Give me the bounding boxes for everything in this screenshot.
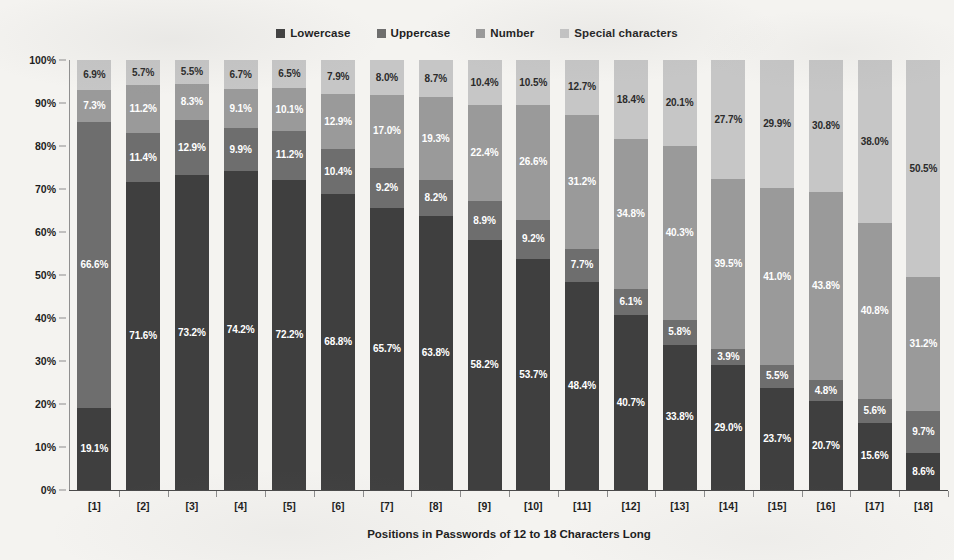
bar-segment[interactable]: 48.4% bbox=[565, 282, 599, 490]
stacked-bar[interactable]: 15.6%5.6%40.8%38.0% bbox=[858, 60, 892, 490]
bar-segment[interactable]: 53.7% bbox=[516, 259, 550, 490]
bar-segment[interactable]: 40.7% bbox=[614, 315, 648, 490]
bar-segment[interactable]: 11.2% bbox=[272, 131, 306, 179]
bar-segment[interactable]: 18.4% bbox=[614, 60, 648, 139]
bar-segment[interactable]: 9.2% bbox=[370, 168, 404, 208]
bar-segment[interactable]: 11.4% bbox=[126, 133, 160, 182]
stacked-bar[interactable]: 58.2%8.9%22.4%10.4% bbox=[468, 60, 502, 490]
bar-segment-value-label: 10.1% bbox=[276, 105, 304, 115]
bar-slot: 29.0%3.9%39.5%27.7% bbox=[704, 60, 753, 490]
bar-segment[interactable]: 10.4% bbox=[321, 149, 355, 194]
bar-segment[interactable]: 29.9% bbox=[760, 60, 794, 188]
bar-segment[interactable]: 22.4% bbox=[468, 105, 502, 201]
stacked-bar[interactable]: 72.2%11.2%10.1%6.5% bbox=[272, 60, 306, 490]
bar-segment[interactable]: 10.1% bbox=[272, 88, 306, 131]
stacked-bar[interactable]: 73.2%12.9%8.3%5.5% bbox=[175, 60, 209, 490]
stacked-bar[interactable]: 19.1%66.6%7.3%6.9% bbox=[77, 60, 111, 490]
bar-segment[interactable]: 58.2% bbox=[468, 240, 502, 490]
stacked-bar[interactable]: 53.7%9.2%26.6%10.5% bbox=[516, 60, 550, 490]
bar-segment[interactable]: 9.9% bbox=[224, 128, 258, 171]
bar-segment[interactable]: 38.0% bbox=[858, 60, 892, 223]
bar-segment[interactable]: 8.7% bbox=[419, 60, 453, 97]
bar-segment[interactable]: 29.0% bbox=[711, 365, 745, 490]
bar-segment[interactable]: 5.8% bbox=[663, 320, 697, 345]
bar-segment-value-label: 9.2% bbox=[522, 234, 544, 244]
bar-segment[interactable]: 41.0% bbox=[760, 188, 794, 364]
bar-segment[interactable]: 8.2% bbox=[419, 180, 453, 215]
bar-segment[interactable]: 33.8% bbox=[663, 345, 697, 490]
bar-segment[interactable]: 71.6% bbox=[126, 182, 160, 490]
bar-segment[interactable]: 9.2% bbox=[516, 220, 550, 260]
bar-segment[interactable]: 23.7% bbox=[760, 388, 794, 490]
bar-segment[interactable]: 5.5% bbox=[760, 365, 794, 389]
bar-segment[interactable]: 20.7% bbox=[809, 401, 843, 490]
stacked-bar[interactable]: 65.7%9.2%17.0%8.0% bbox=[370, 60, 404, 490]
bar-segment[interactable]: 43.8% bbox=[809, 192, 843, 380]
bar-segment[interactable]: 6.7% bbox=[224, 60, 258, 89]
bar-segment[interactable]: 30.8% bbox=[809, 60, 843, 192]
bar-segment[interactable]: 12.7% bbox=[565, 60, 599, 115]
stacked-bar[interactable]: 48.4%7.7%31.2%12.7% bbox=[565, 60, 599, 490]
bar-segment[interactable]: 39.5% bbox=[711, 179, 745, 349]
stacked-bar[interactable]: 40.7%6.1%34.8%18.4% bbox=[614, 60, 648, 490]
bar-segment[interactable]: 8.9% bbox=[468, 201, 502, 239]
bar-segment[interactable]: 7.3% bbox=[77, 90, 111, 121]
bar-segment[interactable]: 74.2% bbox=[224, 171, 258, 490]
bar-segment[interactable]: 12.9% bbox=[321, 94, 355, 149]
stacked-bar[interactable]: 23.7%5.5%41.0%29.9% bbox=[760, 60, 794, 490]
x-axis-tick-mark bbox=[753, 491, 754, 497]
bar-segment[interactable]: 19.1% bbox=[77, 408, 111, 490]
stacked-bar[interactable]: 8.6%9.7%31.2%50.5% bbox=[906, 60, 940, 490]
bar-segment[interactable]: 8.6% bbox=[906, 453, 940, 490]
bar-segment[interactable]: 34.8% bbox=[614, 139, 648, 289]
bar-segment[interactable]: 63.8% bbox=[419, 216, 453, 490]
bar-segment[interactable]: 15.6% bbox=[858, 423, 892, 490]
stacked-bar[interactable]: 74.2%9.9%9.1%6.7% bbox=[224, 60, 258, 490]
bar-segment[interactable]: 11.2% bbox=[126, 85, 160, 133]
bar-segment[interactable]: 5.5% bbox=[175, 60, 209, 84]
bar-segment[interactable]: 8.3% bbox=[175, 84, 209, 120]
stacked-bar[interactable]: 68.8%10.4%12.9%7.9% bbox=[321, 60, 355, 490]
x-axis-label: [2] bbox=[119, 500, 168, 512]
bar-segment[interactable]: 5.6% bbox=[858, 399, 892, 423]
stacked-bar[interactable]: 20.7%4.8%43.8%30.8% bbox=[809, 60, 843, 490]
bar-segment[interactable]: 8.0% bbox=[370, 60, 404, 94]
bar-segment[interactable]: 40.8% bbox=[858, 223, 892, 398]
bar-segment[interactable]: 72.2% bbox=[272, 180, 306, 490]
bar-segment[interactable]: 40.3% bbox=[663, 146, 697, 319]
bar-segment[interactable]: 27.7% bbox=[711, 60, 745, 179]
bar-segment[interactable]: 10.5% bbox=[516, 60, 550, 105]
bar-segment[interactable]: 19.3% bbox=[419, 97, 453, 180]
bar-segment[interactable]: 6.9% bbox=[77, 60, 111, 90]
bar-segment[interactable]: 31.2% bbox=[906, 277, 940, 411]
bar-segment[interactable]: 9.1% bbox=[224, 89, 258, 128]
bar-segment[interactable]: 4.8% bbox=[809, 380, 843, 401]
bar-segment[interactable]: 20.1% bbox=[663, 60, 697, 146]
bar-segment[interactable]: 9.7% bbox=[906, 411, 940, 453]
stacked-bar[interactable]: 63.8%8.2%19.3%8.7% bbox=[419, 60, 453, 490]
stacked-bar[interactable]: 33.8%5.8%40.3%20.1% bbox=[663, 60, 697, 490]
bar-segment[interactable]: 26.6% bbox=[516, 105, 550, 219]
bar-segment[interactable]: 73.2% bbox=[175, 175, 209, 490]
bar-segment[interactable]: 5.7% bbox=[126, 60, 160, 85]
bar-segment[interactable]: 6.5% bbox=[272, 60, 306, 88]
bar-segment[interactable]: 7.9% bbox=[321, 60, 355, 94]
bar-segment[interactable]: 6.1% bbox=[614, 289, 648, 315]
bar-segment[interactable]: 12.9% bbox=[175, 120, 209, 175]
bar-segment[interactable]: 31.2% bbox=[565, 115, 599, 249]
stacked-bar[interactable]: 71.6%11.4%11.2%5.7% bbox=[126, 60, 160, 490]
y-axis-tick-mark bbox=[59, 447, 66, 448]
stacked-bar[interactable]: 29.0%3.9%39.5%27.7% bbox=[711, 60, 745, 490]
bar-segment[interactable]: 17.0% bbox=[370, 95, 404, 168]
bar-segment[interactable]: 50.5% bbox=[906, 60, 940, 277]
bar-segment[interactable]: 68.8% bbox=[321, 194, 355, 490]
bar-segment-value-label: 23.7% bbox=[763, 434, 791, 444]
legend-entry: Uppercase bbox=[377, 27, 451, 39]
bar-segment[interactable]: 66.6% bbox=[77, 122, 111, 408]
bar-segment-value-label: 8.7% bbox=[425, 74, 447, 84]
bar-segment[interactable]: 10.4% bbox=[468, 60, 502, 105]
bar-segment-value-label: 31.2% bbox=[568, 177, 596, 187]
bar-segment[interactable]: 65.7% bbox=[370, 208, 404, 491]
bar-segment[interactable]: 3.9% bbox=[711, 349, 745, 366]
bar-segment[interactable]: 7.7% bbox=[565, 249, 599, 282]
